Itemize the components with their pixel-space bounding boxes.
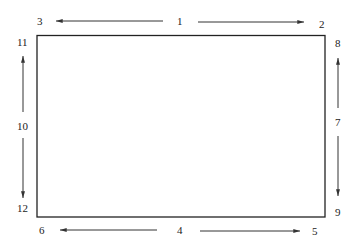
label-bottom-left: 6 [39, 224, 45, 236]
label-top-center: 1 [177, 15, 183, 27]
label-left-top: 11 [17, 36, 28, 48]
label-top-left: 3 [37, 15, 43, 27]
label-left-center: 10 [17, 120, 29, 132]
label-left-bottom: 12 [17, 202, 28, 214]
diagram-canvas: 3 1 2 8 7 9 6 4 5 11 10 12 [0, 0, 359, 246]
label-right-top: 8 [335, 37, 341, 49]
label-top-right: 2 [319, 18, 325, 30]
label-bottom-right: 5 [312, 225, 318, 237]
label-right-bottom: 9 [335, 206, 341, 218]
label-right-center: 7 [335, 116, 341, 128]
main-rectangle [37, 36, 325, 218]
label-bottom-center: 4 [177, 224, 183, 236]
